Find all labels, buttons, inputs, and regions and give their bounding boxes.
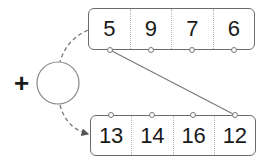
- bottom-cell-3: 12: [215, 116, 255, 155]
- mapping-line: [110, 50, 235, 115]
- bottom-cell-2: 16: [174, 116, 215, 155]
- dashed-connector-top: [60, 30, 88, 62]
- plus-operator: +: [14, 70, 29, 96]
- top-cell-1: 9: [131, 9, 173, 49]
- dashed-arrow-bottom: [60, 105, 88, 134]
- top-cell-0: 5: [89, 9, 131, 49]
- top-cell-2: 7: [172, 9, 214, 49]
- bottom-cell-1: 14: [132, 116, 173, 155]
- top-cell-3: 6: [214, 9, 255, 49]
- operand-circle: [37, 62, 79, 104]
- bottom-number-row: 13 14 16 12: [90, 115, 256, 156]
- top-number-row: 5 9 7 6: [88, 8, 255, 50]
- bottom-cell-0: 13: [91, 116, 132, 155]
